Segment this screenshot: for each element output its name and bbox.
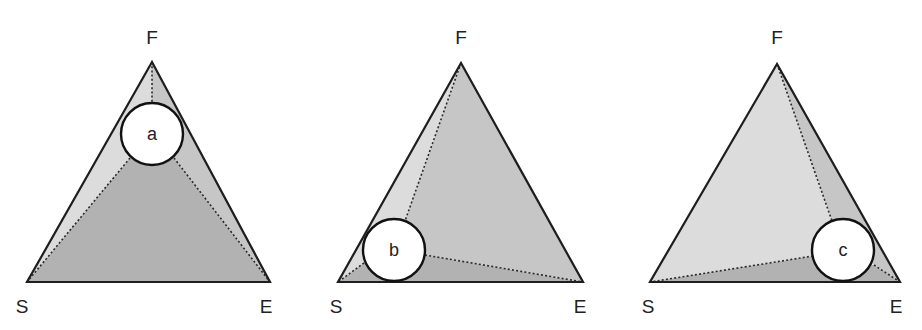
triangle-diagram-c: cFSE — [642, 27, 903, 317]
vertex-label-e: E — [260, 296, 273, 317]
diagram-canvas: aFSE bFSE cFSE — [0, 0, 922, 330]
circle-label: a — [147, 124, 158, 144]
vertex-label-f: F — [455, 27, 467, 48]
triangle-diagram-a: aFSE — [16, 27, 273, 317]
circle-label: b — [389, 240, 399, 260]
vertex-label-f: F — [771, 27, 783, 48]
left-region — [650, 64, 832, 282]
right-region — [405, 63, 583, 282]
vertex-label-e: E — [574, 296, 587, 317]
circle-label: c — [839, 240, 848, 260]
ternary-diagrams-figure: aFSE bFSE cFSE — [0, 0, 922, 330]
vertex-label-s: S — [16, 296, 29, 317]
vertex-label-s: S — [642, 296, 655, 317]
vertex-label-f: F — [146, 27, 158, 48]
vertex-label-e: E — [890, 296, 903, 317]
vertex-label-s: S — [330, 296, 343, 317]
triangle-diagram-b: bFSE — [330, 27, 587, 317]
